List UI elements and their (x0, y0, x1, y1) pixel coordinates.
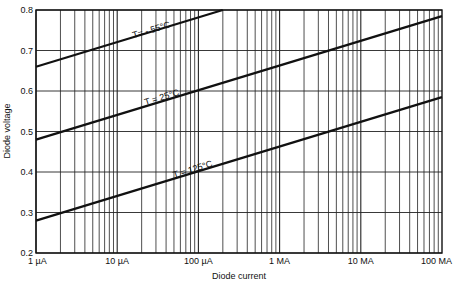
x-tick-label: 10 µA (105, 256, 129, 266)
x-tick-label: 1 µA (28, 256, 47, 266)
chart-canvas: T= - 55°CT = 25°CT = 125°C 0.20.30.40.50… (0, 0, 460, 287)
curve-label: T = 125°C (172, 158, 214, 180)
grid-lines (36, 10, 442, 253)
x-tick-label: 100 µA (184, 256, 213, 266)
y-tick-label: 0.3 (20, 208, 33, 218)
y-tick-label: 0.5 (20, 127, 33, 137)
y-tick-labels: 0.20.30.40.50.60.70.8 (20, 5, 33, 258)
curve-line (36, 97, 442, 221)
x-tick-label: 10 MA (348, 256, 374, 266)
y-tick-label: 0.6 (20, 86, 33, 96)
curve-label: T = 25°C (143, 87, 181, 107)
diode-voltage-chart: T= - 55°CT = 25°CT = 125°C 0.20.30.40.50… (0, 0, 460, 287)
y-tick-label: 0.4 (20, 167, 33, 177)
curve-line (36, 16, 442, 140)
curves: T= - 55°CT = 25°CT = 125°C (36, 10, 442, 221)
curve-label: T= - 55°C (131, 19, 172, 40)
y-axis-label: Diode voltage (2, 103, 12, 158)
y-tick-label: 0.7 (20, 46, 33, 56)
y-tick-label: 0.8 (20, 5, 33, 15)
x-tick-labels: 1 µA10 µA100 µA1 MA10 MA100 MA (28, 256, 452, 266)
x-tick-label: 1 MA (269, 256, 290, 266)
x-axis-label: Diode current (212, 271, 267, 281)
x-tick-label: 100 MA (421, 256, 452, 266)
